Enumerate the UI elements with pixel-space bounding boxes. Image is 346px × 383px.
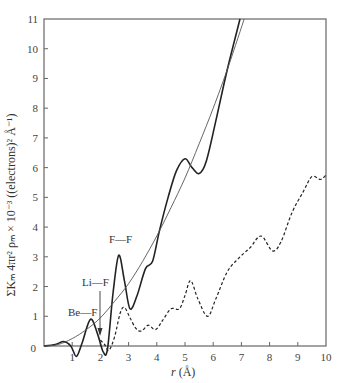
x-tick-label: 10 xyxy=(321,351,333,363)
x-tick-label: 6 xyxy=(210,351,216,363)
y-tick-label: 5 xyxy=(33,191,39,203)
y-tick-label: 3 xyxy=(33,251,39,263)
y-tick-label: 11 xyxy=(27,13,38,25)
x-tick-label: 7 xyxy=(239,351,245,363)
y-axis-title: ΣKₘ 4πr² ρₘ × 10⁻³ ((electrons)² Å⁻¹) xyxy=(4,114,18,297)
x-tick-label: 4 xyxy=(154,351,160,363)
x-tick-label: 8 xyxy=(267,351,273,363)
y-tick-label: 6 xyxy=(33,162,39,174)
y-tick-label: 10 xyxy=(27,43,39,55)
annotation-f-f: F—F xyxy=(109,233,132,245)
y-tick-label: 4 xyxy=(33,221,39,233)
x-tick-label: 9 xyxy=(295,351,301,363)
x-tick-label: 3 xyxy=(126,351,132,363)
y-tick-label: 7 xyxy=(33,132,39,144)
dashed-difference-curve xyxy=(100,175,326,351)
y-axis: 01234567891011 xyxy=(27,13,48,354)
parabola-curve xyxy=(44,19,244,346)
x-axis: 12345678910 xyxy=(69,342,332,363)
annotation-be-f: Be—F xyxy=(68,306,97,318)
rdf-chart: 01234567891011 12345678910 Be—F Li—F F—F… xyxy=(0,0,346,383)
y-tick-label: 8 xyxy=(33,102,39,114)
annotation-li-f: Li—F xyxy=(82,276,109,288)
y-tick-label: 1 xyxy=(33,310,39,322)
y-tick-label: 0 xyxy=(31,342,37,354)
y-tick-label: 9 xyxy=(33,72,39,84)
x-axis-title: r (Å) xyxy=(171,365,195,379)
x-tick-label: 5 xyxy=(182,351,188,363)
x-tick-label: 2 xyxy=(98,351,104,363)
y-tick-label: 2 xyxy=(33,281,39,293)
